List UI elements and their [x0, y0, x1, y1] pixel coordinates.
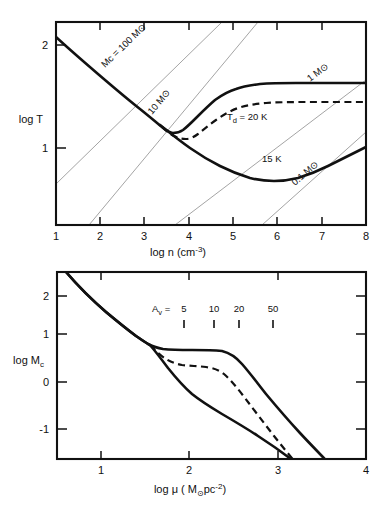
bottom-panel: 2 1 0 -1 log Mc 1 2 3 4 log μ ( M⊙pc-2) …	[13, 272, 369, 498]
figure-canvas: 2 1 log T 1 2 3 4 5 6 7 8	[0, 0, 384, 513]
mass-line-01msun	[262, 132, 366, 225]
top-panel: 2 1 log T 1 2 3 4 5 6 7 8	[19, 21, 369, 258]
bottom-yaxis-label-main: log M	[13, 354, 40, 366]
annotation-15k: 15 K	[262, 153, 282, 164]
bottom-xtick-label-2: 2	[186, 464, 192, 476]
curve-td15-bottom	[150, 345, 318, 490]
bottom-xaxis-label-tail: )	[222, 483, 226, 495]
annotation-av-value-50: 50	[268, 303, 279, 314]
annotation-av-value-10: 10	[209, 303, 220, 314]
bottom-ytick-label-neg1: -1	[39, 423, 49, 435]
mass-line-100msun	[56, 22, 222, 184]
annotation-mc-100msun: Mc = 100 M⊙	[99, 21, 148, 69]
top-xaxis-label-tail: )	[202, 246, 206, 258]
annotation-td-20k-post: = 20 K	[237, 111, 268, 122]
scientific-figure: 2 1 log T 1 2 3 4 5 6 7 8	[0, 0, 384, 513]
top-xtick-label-6: 6	[274, 230, 280, 242]
bottom-xaxis-label: log μ ( M⊙pc-2)	[154, 482, 226, 498]
bottom-xaxis-label-sub: ⊙	[197, 489, 204, 498]
top-ytick-label-1: 1	[42, 142, 48, 154]
bottom-xtick-label-1: 1	[98, 464, 104, 476]
curve-td20-top	[56, 37, 366, 133]
bottom-ytick-label-0: 0	[43, 376, 49, 388]
bottom-xaxis-label-mid: pc	[204, 483, 216, 495]
bottom-yaxis-label: log Mc	[13, 354, 44, 369]
annotation-av-value-5: 5	[181, 303, 186, 314]
annotation-av-value-20: 20	[234, 303, 245, 314]
bottom-ytick-label-1: 1	[43, 328, 49, 340]
annotation-av-label-eq: =	[162, 303, 171, 314]
annotation-1msun: 1 M⊙	[305, 60, 331, 83]
top-yaxis-label: log T	[19, 113, 44, 125]
top-xaxis-label-main: log n (cm	[150, 246, 195, 258]
top-xticks	[48, 22, 366, 225]
annotation-av-label: Av =	[152, 303, 171, 317]
bottom-xtick-label-3: 3	[275, 464, 281, 476]
top-ytick-label-2: 2	[42, 39, 48, 51]
top-xtick-label-5: 5	[230, 230, 236, 242]
bottom-panel-frame	[57, 272, 366, 459]
bottom-xaxis-label-pre: log μ ( M	[154, 483, 197, 495]
annotation-10msun: 10 M⊙	[145, 87, 172, 116]
top-xtick-label-2: 2	[97, 230, 103, 242]
top-xtick-label-7: 7	[319, 230, 325, 242]
top-xaxis-label: log n (cm-3)	[150, 245, 206, 258]
annotation-td-20k: Td = 20 K	[227, 111, 268, 125]
bottom-xticks	[101, 272, 366, 459]
top-xtick-label-3: 3	[141, 230, 147, 242]
top-xtick-label-4: 4	[186, 230, 192, 242]
top-xtick-label-1: 1	[53, 230, 59, 242]
top-xtick-label-8: 8	[363, 230, 369, 242]
bottom-xtick-label-4: 4	[363, 464, 369, 476]
bottom-ytick-label-2: 2	[43, 290, 49, 302]
bottom-yaxis-label-sub: c	[40, 360, 44, 369]
